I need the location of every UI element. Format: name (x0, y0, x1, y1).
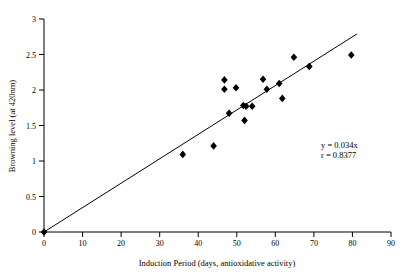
x-tick-label: 20 (117, 239, 125, 248)
y-tick-group (39, 19, 44, 232)
data-point (41, 228, 48, 236)
data-point (210, 142, 217, 150)
data-point (260, 75, 267, 83)
data-point (249, 102, 256, 110)
data-point (348, 51, 355, 59)
y-tick-label: 1 (32, 157, 36, 166)
y-tick-label: 0.5 (26, 193, 36, 202)
y-tick-label: 2 (32, 86, 36, 95)
x-tick-label: 70 (310, 239, 318, 248)
data-point (241, 117, 248, 125)
data-point (291, 53, 298, 61)
x-tick-label: 50 (233, 239, 241, 248)
scatter-plot: 0 0.5 1 1.5 2 2.5 3 0 10 20 30 40 (0, 0, 412, 278)
data-point-group (41, 51, 355, 236)
equation-annotation: y = 0.034x (321, 140, 358, 150)
data-point (306, 63, 313, 71)
y-tick-labels: 0 0.5 1 1.5 2 2.5 3 (26, 15, 36, 237)
x-tick-label: 30 (156, 239, 164, 248)
x-axis-title: Induction Period (days, antioxidative ac… (139, 258, 296, 268)
y-tick-label: 3 (32, 15, 36, 24)
x-tick-label: 40 (194, 239, 202, 248)
data-point (221, 76, 228, 84)
chart-figure: 0 0.5 1 1.5 2 2.5 3 0 10 20 30 40 (0, 0, 412, 278)
y-tick-label: 0 (32, 228, 36, 237)
y-axis-title: Browning level (at 420nm) (7, 80, 17, 172)
y-tick-label: 1.5 (26, 122, 36, 131)
axes-group (44, 19, 391, 232)
data-point (233, 84, 240, 92)
data-point (276, 80, 283, 88)
x-tick-label: 10 (79, 239, 87, 248)
x-tick-label: 80 (348, 239, 356, 248)
data-point (221, 85, 228, 93)
x-tick-labels: 0 10 20 30 40 50 60 70 80 90 (42, 239, 395, 248)
data-point (279, 95, 286, 103)
x-tick-group (44, 232, 391, 237)
x-tick-label: 60 (271, 239, 279, 248)
y-tick-label: 2.5 (26, 51, 36, 60)
data-point (180, 151, 187, 159)
x-tick-label: 90 (387, 239, 395, 248)
correlation-annotation: r = 0.8377 (321, 150, 356, 160)
x-tick-label: 0 (42, 239, 46, 248)
